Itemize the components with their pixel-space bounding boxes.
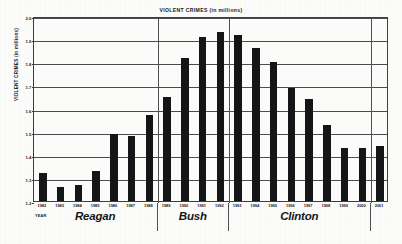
presidency-label: Bush [179,210,207,222]
x-axis-tick-label: 1991 [197,203,206,208]
x-axis-tick-label: 1996 [286,203,295,208]
plot-area: 2.01.91.81.71.61.51.41.31.2 [33,17,388,202]
x-axis-tick-label: 1997 [304,203,313,208]
bars-group [34,18,387,201]
bar [288,88,296,201]
x-axis-tick-label: 1988 [144,203,153,208]
bar [359,148,367,201]
x-axis-tick-label: 1999 [339,203,348,208]
bar [110,134,118,201]
y-axis-tick-label: 2.0 [26,16,32,21]
chart-title: VIOLENT CRIMES (in millions) [0,7,402,13]
x-axis-tick-label: 1989 [162,203,171,208]
presidency-divider [229,18,230,203]
y-axis-tick-label: 1.5 [26,131,32,136]
bar [57,187,65,201]
bar [305,99,313,201]
bar [323,125,331,201]
y-axis-tick-label: 1.2 [26,201,32,206]
bar [270,62,278,201]
x-axis-tick-label: 1994 [250,203,259,208]
x-axis-tick-label: 1998 [321,203,330,208]
x-axis-tick-label: 1985 [91,203,100,208]
presidency-label: Clinton [280,210,318,222]
bar [199,37,207,201]
presidency-divider-lower [228,203,229,231]
x-axis-title: YEAR [35,213,47,218]
y-axis-tick-label: 1.8 [26,62,32,67]
bar [92,171,100,201]
x-axis-tick-label: 1990 [179,203,188,208]
bar [163,97,171,201]
presidency-divider-lower [157,203,158,231]
x-axis-tick-label: 1993 [233,203,242,208]
x-axis-tick-label: 1986 [108,203,117,208]
bar [75,185,83,201]
y-axis-tick-label: 1.9 [26,39,32,44]
presidency-divider [371,18,372,203]
x-axis-tick-label: 1987 [126,203,135,208]
bar [341,148,349,201]
presidency-label: Reagan [75,210,115,222]
bar [146,115,154,201]
y-axis-tick-label: 1.4 [26,154,32,159]
x-axis-tick-label: 2000 [357,203,366,208]
x-axis-tick-label: 1992 [215,203,224,208]
bar [39,173,47,201]
bar [181,58,189,201]
bar [217,32,225,201]
violent-crimes-chart-figure: VIOLENT CRIMES (in millions) VIOLENT CRI… [0,0,402,244]
y-axis-tick-label: 1.6 [26,108,32,113]
y-axis-tick-label: 1.3 [26,177,32,182]
x-axis-tick-label: 1995 [268,203,277,208]
bar [376,146,384,202]
presidency-divider-lower [370,203,371,231]
presidency-divider [158,18,159,203]
x-axis-tick-label: 2001 [375,203,384,208]
x-axis-tick-label: 1983 [55,203,64,208]
x-axis-tick-label: 1982 [37,203,46,208]
bar [128,136,136,201]
bar [252,48,260,201]
bar [234,35,242,202]
x-axis-tick-label: 1984 [73,203,82,208]
y-axis-title: VIOLENT CRIMES (in millions) [14,5,19,125]
y-axis-tick-label: 1.7 [26,85,32,90]
